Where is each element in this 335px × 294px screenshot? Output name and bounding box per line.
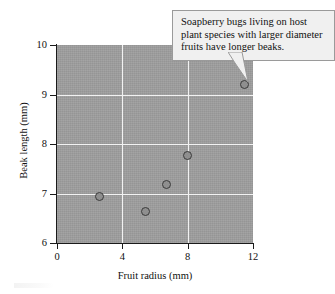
y-axis-tick bbox=[50, 194, 57, 195]
x-axis-tick-label: 0 bbox=[42, 251, 72, 262]
x-axis-tick-label: 4 bbox=[107, 251, 137, 262]
x-axis-tick bbox=[253, 243, 254, 249]
y-axis-tick-label: 10 bbox=[21, 40, 47, 51]
page-scan-artifact bbox=[14, 283, 54, 288]
x-axis-tick-label: 8 bbox=[173, 251, 203, 262]
gridline-vertical bbox=[188, 45, 189, 243]
data-point bbox=[183, 151, 192, 160]
y-axis-tick bbox=[50, 243, 57, 244]
gridline-horizontal bbox=[57, 95, 253, 96]
gridline-vertical bbox=[122, 45, 123, 243]
y-axis-tick bbox=[50, 144, 57, 145]
y-axis-tick bbox=[50, 95, 57, 96]
y-axis-title: Beak length (mm) bbox=[18, 66, 29, 216]
x-axis-tick-label: 12 bbox=[238, 251, 268, 262]
x-axis-tick bbox=[57, 243, 58, 249]
x-axis-line bbox=[56, 243, 254, 244]
data-point bbox=[141, 207, 150, 216]
x-axis-tick bbox=[188, 243, 189, 249]
y-axis-tick-label: 6 bbox=[21, 238, 47, 249]
data-point bbox=[95, 192, 104, 201]
plot-area bbox=[57, 45, 253, 243]
data-point bbox=[240, 80, 249, 89]
y-axis-tick bbox=[50, 45, 57, 46]
data-point bbox=[162, 180, 171, 189]
x-axis-title: Fruit radius (mm) bbox=[57, 270, 253, 281]
x-axis-tick bbox=[122, 243, 123, 249]
gridline-horizontal bbox=[57, 144, 253, 145]
annotation-callout: Soapberry bugs living on host plant spec… bbox=[172, 10, 335, 61]
gridline-horizontal bbox=[57, 194, 253, 195]
